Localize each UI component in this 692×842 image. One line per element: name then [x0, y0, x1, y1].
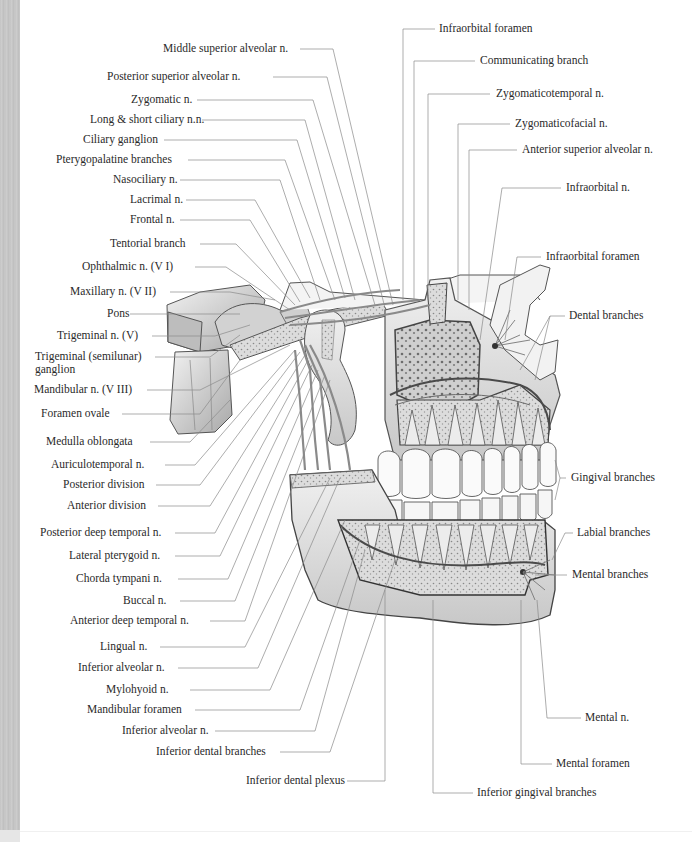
- label-trigeminal-ganglion-line1: Trigeminal (semilunar): [35, 350, 142, 363]
- label-anterior-superior-alveolar-n: Anterior superior alveolar n.: [522, 143, 653, 156]
- label-tentorial-branch: Tentorial branch: [110, 237, 186, 250]
- label-communicating-branch: Communicating branch: [480, 54, 588, 67]
- label-zygomaticofacial-n: Zygomaticofacial n.: [515, 117, 608, 130]
- label-lacrimal-n: Lacrimal n.: [130, 193, 183, 206]
- label-labial-branches: Labial branches: [577, 526, 650, 539]
- label-lateral-pterygoid-n: Lateral pterygoid n.: [69, 549, 160, 562]
- label-medulla-oblongata: Medulla oblongata: [46, 435, 133, 448]
- label-mandibular-n: Mandibular n. (V III): [34, 383, 132, 396]
- label-buccal-n: Buccal n.: [123, 594, 166, 607]
- label-anterior-division: Anterior division: [67, 499, 146, 512]
- label-inferior-gingival-branches: Inferior gingival branches: [477, 786, 596, 799]
- label-inferior-dental-plexus: Inferior dental plexus: [246, 774, 345, 787]
- label-frontal-n: Frontal n.: [130, 213, 175, 226]
- label-mental-n: Mental n.: [585, 711, 629, 724]
- label-posterior-deep-temporal-n: Posterior deep temporal n.: [40, 526, 161, 539]
- label-trigeminal-n: Trigeminal n. (V): [57, 329, 138, 342]
- label-chorda-tympani-n: Chorda tympani n.: [76, 572, 162, 585]
- label-middle-superior-alveolar-n: Middle superior alveolar n.: [163, 42, 288, 55]
- label-posterior-superior-alveolar-n: Posterior superior alveolar n.: [107, 70, 241, 83]
- label-mandibular-foramen: Mandibular foramen: [87, 703, 182, 716]
- label-dental-branches: Dental branches: [569, 309, 643, 322]
- label-inferior-alveolar-n-1: Inferior alveolar n.: [78, 661, 165, 674]
- label-mental-foramen: Mental foramen: [556, 757, 630, 770]
- label-zygomatic-n: Zygomatic n.: [131, 93, 192, 106]
- label-long-short-ciliary-nn: Long & short ciliary n.n.: [90, 113, 204, 126]
- label-mylohyoid-n: Mylohyoid n.: [106, 683, 169, 696]
- label-posterior-division: Posterior division: [63, 478, 144, 491]
- label-infraorbital-foramen-top: Infraorbital foramen: [439, 22, 533, 35]
- label-pterygopalatine-branches: Pterygopalatine branches: [56, 153, 172, 166]
- label-pons: Pons: [107, 307, 129, 320]
- label-mental-branches: Mental branches: [572, 568, 648, 581]
- label-ophthalmic-n: Ophthalmic n. (V I): [82, 260, 173, 273]
- label-anterior-deep-temporal-n: Anterior deep temporal n.: [70, 614, 189, 627]
- label-ciliary-ganglion: Ciliary ganglion: [83, 133, 158, 146]
- label-inferior-alveolar-n-2: Inferior alveolar n.: [122, 724, 209, 737]
- label-trigeminal-semilunar-ganglion: Trigeminal (semilunar) ganglion: [35, 350, 142, 376]
- label-gingival-branches: Gingival branches: [571, 471, 655, 484]
- label-maxillary-n: Maxillary n. (V II): [70, 285, 156, 298]
- label-inferior-dental-branches: Inferior dental branches: [156, 745, 266, 758]
- label-auriculotemporal-n: Auriculotemporal n.: [51, 458, 144, 471]
- label-infraorbital-n: Infraorbital n.: [566, 181, 630, 194]
- label-lingual-n: Lingual n.: [100, 640, 147, 653]
- label-foramen-ovale: Foramen ovale: [41, 407, 110, 420]
- label-nasociliary-n: Nasociliary n.: [113, 173, 178, 186]
- label-infraorbital-foramen: Infraorbital foramen: [546, 250, 640, 263]
- infraorbital-foramen-mark: [492, 343, 498, 349]
- label-trigeminal-ganglion-line2: ganglion: [35, 363, 142, 376]
- label-zygomaticotemporal-n: Zygomaticotemporal n.: [496, 87, 604, 100]
